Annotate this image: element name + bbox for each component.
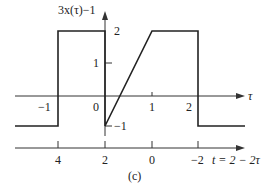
tau-tick-label-2: 2 — [186, 101, 192, 113]
t-axis-label: t = 2 − 2τ — [212, 154, 260, 166]
figure-caption: (c) — [128, 170, 141, 182]
t-tick-label-neg2: −2 — [191, 154, 204, 166]
y-tick-label-2: 2 — [114, 25, 120, 37]
y-axis-arrow-icon — [102, 11, 108, 20]
t-tick-label-2: 2 — [102, 154, 108, 166]
signal-figure: 3x(τ)−1 τ 2 1 −1 −1 0 1 2 4 2 0 −2 t = 2… — [0, 0, 275, 190]
y-axis-label: 3x(τ)−1 — [58, 4, 96, 16]
y-tick-label-neg1: −1 — [114, 120, 127, 132]
tau-axis-label: τ — [248, 90, 252, 102]
tau-tick-label-0: 0 — [93, 101, 99, 113]
tau-tick-label-neg1: −1 — [38, 101, 51, 113]
tau-axis-arrow-icon — [236, 93, 245, 99]
t-tick-label-0: 0 — [149, 154, 155, 166]
tau-tick-label-1: 1 — [149, 101, 155, 113]
t-axis-arrow-icon — [236, 145, 245, 151]
t-tick-label-4: 4 — [55, 154, 61, 166]
y-tick-label-1: 1 — [93, 57, 99, 69]
